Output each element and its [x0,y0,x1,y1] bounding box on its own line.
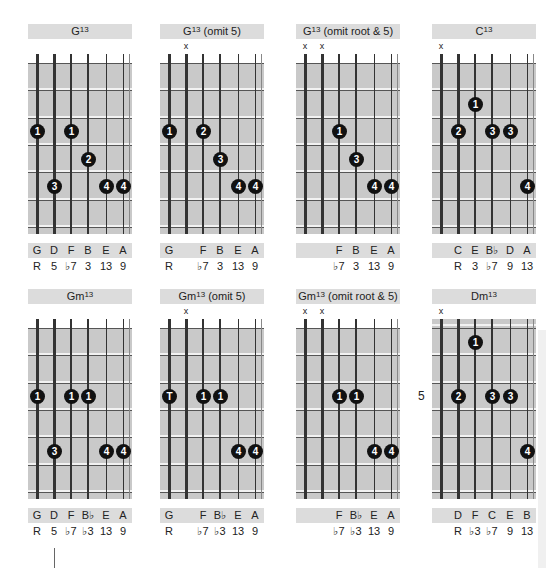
finger-dot: 1 [162,124,177,139]
interval-label: 9 [382,259,400,273]
note-name: F [331,508,347,523]
board-edge [533,54,534,234]
interval-label: R [449,524,467,538]
interval-label: ♭7 [330,524,348,538]
chord-title-superscript: 13 [311,25,320,34]
chord-title-suffix: (omit root & 5) [320,25,393,37]
interval-label: ♭3 [79,524,97,538]
finger-dot: 4 [231,179,246,194]
chord-diagram: Gm13131144GDFB♭EAR5♭7♭3139 [28,289,132,549]
fret-line [432,383,536,384]
note-name: E [98,508,114,523]
guitar-string [53,54,56,234]
chord-diagram: G13131244GDFBEAR5♭73139 [28,24,132,284]
fret-position-label: 5 [418,389,425,403]
board-edge [533,319,534,499]
board-edge [129,54,130,234]
guitar-string [457,319,460,499]
guitar-string [185,319,188,499]
muted-string-marker: x [317,41,327,51]
guitar-string [491,54,493,234]
guitar-string [457,54,460,234]
guitar-string [168,54,171,234]
finger-dot: T [162,389,177,404]
note-name: A [383,508,399,523]
fretboard: 131144 [28,319,132,499]
note-name: F [195,243,211,258]
board-edge [397,54,398,234]
note-name: A [115,243,131,258]
note-name: B♭ [212,508,228,523]
finger-dot: 1 [468,335,483,350]
note-name: B [80,243,96,258]
chord-title-suffix: (omit root & 5) [325,290,398,302]
margin-rule [54,548,55,568]
finger-dot: 1 [196,389,211,404]
interval-label: 13 [229,259,247,273]
note-names-row: GDFBEA [28,243,132,258]
chord-title-superscript: 13 [84,290,93,299]
finger-dot: 3 [485,389,500,404]
chord-title-superscript: 13 [488,290,497,299]
note-name: E [366,243,382,258]
nut-area [160,319,264,328]
fretboard: 131244 [28,54,132,234]
note-name: G [161,508,177,523]
finger-dot: 3 [213,152,228,167]
fret-line [432,200,536,201]
note-name: B [519,508,535,523]
fret-line [432,145,536,146]
chord-title-base: G [71,25,80,37]
fret-line [432,465,536,466]
fret-line [160,172,264,173]
finger-dot: 4 [99,179,114,194]
fret-line [28,410,132,411]
chord-title: Gm13 [28,289,132,304]
finger-dot: 4 [367,444,382,459]
fret-line [160,410,264,411]
guitar-string [440,54,443,234]
interval-label: ♭7 [62,259,80,273]
fret-line [28,328,132,329]
guitar-string [168,319,171,499]
chord-title-superscript: 13 [196,290,205,299]
fret-line [28,383,132,384]
muted-string-marker: x [436,306,446,316]
fret-line [296,63,400,64]
chord-diagram: Dm13x213345DFCEBR♭3♭7913 [432,289,536,549]
guitar-string [238,319,239,499]
finger-dot: 3 [47,444,62,459]
finger-dot: 4 [248,444,263,459]
guitar-string [36,54,39,234]
guitar-string [391,54,392,234]
guitar-string [374,319,375,499]
interval-label: 9 [246,259,264,273]
interval-label: ♭7 [330,259,348,273]
finger-dot: 1 [332,124,347,139]
interval-label: 3 [211,259,229,273]
note-name: A [519,243,535,258]
note-name: E [502,508,518,523]
guitar-string [338,54,340,234]
chord-title-base: Gm [179,290,197,302]
note-name: G [29,508,45,523]
chord-diagram: C13x21334CEB♭DAR3♭7913 [432,24,536,284]
muted-string-marker: x [300,41,310,51]
chord-diagram: Gm13 (omit root & 5)xx1144FB♭EA♭7♭3139 [296,289,400,549]
note-name: F [195,508,211,523]
fret-line [160,118,264,119]
chord-title-superscript: 13 [484,25,493,34]
interval-label: 5 [45,524,63,538]
fret-line [296,145,400,146]
note-name: A [383,243,399,258]
interval-label: 5 [45,259,63,273]
note-names-row: FB♭EA [296,508,400,523]
chord-title-superscript: 13 [192,25,201,34]
guitar-string [123,54,124,234]
note-names-row: GFB♭EA [160,508,264,523]
fret-line [432,90,536,91]
note-name: B♭ [80,508,96,523]
fret-line [160,200,264,201]
guitar-string [321,319,324,499]
muted-string-marker: x [300,306,310,316]
